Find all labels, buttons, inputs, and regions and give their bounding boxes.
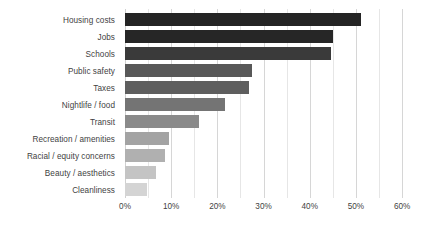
bars-group: [125, 9, 416, 198]
tick-label: 20%: [209, 202, 225, 212]
category-label: Taxes: [0, 84, 115, 93]
category-label: Jobs: [0, 33, 115, 42]
bar: [125, 115, 199, 128]
category-label: Cleanliness: [0, 186, 115, 195]
value-axis: 0%10%20%30%40%50%60%: [125, 198, 416, 218]
category-label: Schools: [0, 50, 115, 59]
category-label: Transit: [0, 118, 115, 127]
bar: [125, 132, 169, 145]
bar-chart: Housing costsJobsSchoolsPublic safetyTax…: [0, 0, 424, 226]
bar: [125, 183, 147, 196]
category-axis: Housing costsJobsSchoolsPublic safetyTax…: [0, 10, 120, 198]
category-label: Housing costs: [0, 16, 115, 25]
bar: [125, 166, 156, 179]
tick-label: 0%: [119, 202, 131, 212]
tick-label: 60%: [394, 202, 410, 212]
category-label: Racial / equity concerns: [0, 152, 115, 161]
bar: [125, 47, 331, 60]
category-label: Nightlife / food: [0, 101, 115, 110]
bar: [125, 149, 165, 162]
tick-label: 30%: [255, 202, 271, 212]
tick-label: 10%: [163, 202, 179, 212]
bar: [125, 98, 225, 111]
bar: [125, 81, 249, 94]
bar: [125, 30, 333, 43]
plot-area: [125, 9, 416, 198]
tick-label: 50%: [348, 202, 364, 212]
bar: [125, 13, 361, 26]
category-label: Public safety: [0, 67, 115, 76]
tick-label: 40%: [302, 202, 318, 212]
category-label: Recreation / amenities: [0, 135, 115, 144]
bar: [125, 64, 252, 77]
category-label: Beauty / aesthetics: [0, 169, 115, 178]
